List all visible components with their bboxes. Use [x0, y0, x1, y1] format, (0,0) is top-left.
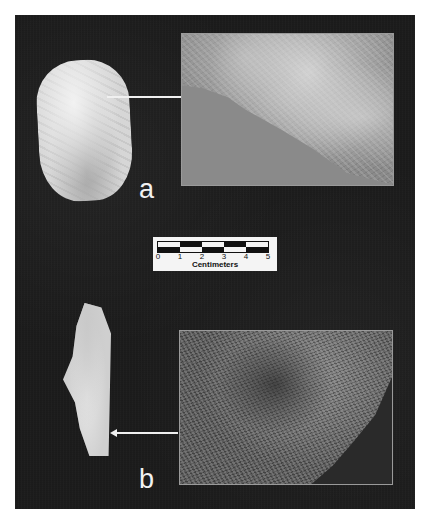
arrow-line-b [114, 432, 178, 434]
artifact-a-image [34, 58, 134, 204]
connector-line-a [107, 96, 181, 98]
panel-label-b: b [139, 466, 154, 493]
scale-bar: 0 1 2 3 4 5 Centimeters [153, 237, 277, 271]
micrograph-inset-a [181, 33, 394, 186]
micrograph-a-bright-region [182, 34, 393, 185]
panel-label-a: a [139, 176, 154, 203]
arrowhead-icon [110, 429, 117, 437]
micrograph-inset-b [179, 330, 393, 485]
scale-unit-label: Centimeters [153, 260, 277, 269]
micrograph-b-shadow-region [180, 331, 392, 484]
